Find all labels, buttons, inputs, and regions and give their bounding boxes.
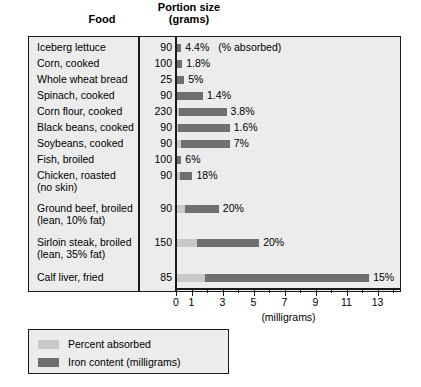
- x-tick-minor: [393, 288, 394, 293]
- x-tick-major: [316, 288, 317, 296]
- bar-segment-iron-content: [177, 92, 203, 100]
- food-name-line1: Spinach, cooked: [37, 89, 115, 101]
- food-name-line1: Chicken, roasted: [37, 169, 116, 181]
- legend-swatch-iron-content: [38, 358, 59, 367]
- bar-label-percent-absorbed: 1.6%: [234, 121, 258, 134]
- chart-page: Food Portion size (grams) Iceberg lettuc…: [0, 0, 421, 387]
- cell-food-name: Soybeans, cooked: [37, 138, 137, 150]
- x-tick-minor: [331, 288, 332, 293]
- cell-portion-size: 90: [138, 42, 172, 54]
- food-name-line1: Black beans, cooked: [37, 121, 134, 133]
- food-name-line2: (lean, 10% fat): [37, 215, 137, 227]
- bar-label-percent-absorbed: 4.4%(% absorbed): [185, 41, 281, 54]
- x-tick-minor: [269, 288, 270, 293]
- x-tick-major: [285, 288, 286, 296]
- food-name-line1: Corn flour, cooked: [37, 105, 122, 117]
- cell-portion-size: 100: [138, 154, 172, 166]
- food-name-line1: Soybeans, cooked: [37, 137, 123, 149]
- bar-label-percent-absorbed: 3.8%: [231, 105, 255, 118]
- cell-portion-size: 90: [138, 138, 172, 150]
- cell-food-name: Spinach, cooked: [37, 90, 137, 102]
- portion-header-line2: (grams): [169, 13, 209, 25]
- bar-segment-percent-absorbed: [177, 239, 197, 247]
- bar-label-percent-absorbed: 6%: [185, 153, 200, 166]
- bar-segment-iron-content: [181, 140, 230, 148]
- cell-portion-size: 90: [138, 90, 172, 102]
- cell-portion-size: 230: [138, 106, 172, 118]
- bar-segment-iron-content: [177, 44, 181, 52]
- percent-absorbed-value: 18%: [197, 169, 218, 181]
- food-name-line2: (lean, 35% fat): [37, 249, 137, 261]
- x-axis-line: [176, 288, 401, 290]
- percent-absorbed-value: 1.4%: [207, 89, 231, 101]
- percent-absorbed-value: 5%: [188, 73, 203, 85]
- x-tick-minor: [238, 288, 239, 293]
- percent-absorbed-value: 20%: [263, 236, 284, 248]
- food-name-line1: Corn, cooked: [37, 57, 99, 69]
- cell-portion-size: 90: [138, 170, 172, 182]
- cell-food-name: Corn flour, cooked: [37, 106, 137, 118]
- x-tick-major: [176, 288, 177, 296]
- chart-frame: Iceberg lettuce904.4%(% absorbed)Corn, c…: [28, 36, 401, 292]
- bar-label-percent-absorbed: 20%: [263, 236, 284, 249]
- bar-segment-iron-content: [177, 156, 181, 164]
- x-tick-minor: [362, 288, 363, 293]
- plot-area: [177, 37, 401, 291]
- x-axis-title: (milligrams): [176, 311, 401, 323]
- cell-food-name: Sirloin steak, broiled(lean, 35% fat): [37, 237, 137, 260]
- cell-portion-size: 150: [138, 237, 172, 249]
- food-name-line1: Whole wheat bread: [37, 73, 127, 85]
- bar-segment-iron-content: [180, 172, 193, 180]
- x-tick-label: 9: [306, 296, 326, 308]
- x-tick-label: 11: [337, 296, 357, 308]
- percent-absorbed-value: 15%: [373, 271, 394, 283]
- x-tick-major: [254, 288, 255, 296]
- bar-label-percent-absorbed: 18%: [197, 169, 218, 182]
- x-tick-label: 3: [213, 296, 233, 308]
- x-tick-minor: [207, 288, 208, 293]
- cell-portion-size: 100: [138, 58, 172, 70]
- portion-header-line1: Portion size: [158, 1, 220, 13]
- bar-label-percent-absorbed: 15%: [373, 271, 394, 284]
- x-tick-label: 13: [368, 296, 388, 308]
- food-name-line1: Fish, broiled: [37, 153, 94, 165]
- percent-absorbed-value: 1.8%: [186, 57, 210, 69]
- food-name-line1: Ground beef, broiled: [37, 202, 133, 214]
- bar-segment-iron-content: [179, 108, 227, 116]
- legend-label-percent-absorbed: Percent absorbed: [68, 338, 151, 350]
- cell-portion-size: 90: [138, 203, 172, 215]
- bar-segment-iron-content: [178, 124, 230, 132]
- food-name-line1: Sirloin steak, broiled: [37, 236, 132, 248]
- bar-label-percent-absorbed: 20%: [223, 202, 244, 215]
- food-name-line2: (no skin): [37, 182, 137, 194]
- percent-absorbed-value: 1.6%: [234, 121, 258, 133]
- cell-food-name: Chicken, roasted(no skin): [37, 170, 137, 193]
- cell-portion-size: 25: [138, 74, 172, 86]
- percent-absorbed-value: 4.4%: [185, 41, 209, 53]
- cell-food-name: Whole wheat bread: [37, 74, 137, 86]
- bar-segment-iron-content: [177, 60, 182, 68]
- bar-label-percent-absorbed: 1.4%: [207, 89, 231, 102]
- x-tick-label: 7: [275, 296, 295, 308]
- x-tick-major: [192, 288, 193, 296]
- legend-swatch-percent-absorbed: [38, 340, 59, 349]
- x-tick-major: [347, 288, 348, 296]
- bar-segment-percent-absorbed: [177, 274, 205, 282]
- bar-label-percent-absorbed: 1.8%: [186, 57, 210, 70]
- x-tick-label: 5: [244, 296, 264, 308]
- column-header-food: Food: [48, 13, 156, 25]
- bar-segment-iron-content: [197, 239, 259, 247]
- cell-portion-size: 90: [138, 122, 172, 134]
- x-tick-label: 1: [182, 296, 202, 308]
- cell-food-name: Iceberg lettuce: [37, 42, 137, 54]
- cell-food-name: Corn, cooked: [37, 58, 137, 70]
- cell-food-name: Ground beef, broiled(lean, 10% fat): [37, 203, 137, 226]
- legend: Percent absorbed Iron content (milligram…: [28, 329, 229, 374]
- cell-food-name: Fish, broiled: [37, 154, 137, 166]
- x-tick-minor: [300, 288, 301, 293]
- percent-absorbed-value: 6%: [185, 153, 200, 165]
- cell-food-name: Calf liver, fried: [37, 272, 137, 284]
- cell-food-name: Black beans, cooked: [37, 122, 137, 134]
- bar-segment-iron-content: [177, 76, 184, 84]
- percent-absorbed-value: 7%: [234, 137, 249, 149]
